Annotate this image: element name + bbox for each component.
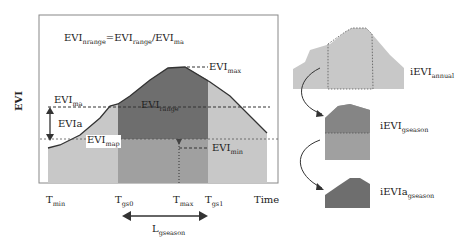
evia-gseason-shape [325,178,370,208]
evi-min-label: EVImin [212,143,243,156]
formula: EVInrange=EVIrange/EVIma [64,33,184,46]
arrow-head-icon [316,110,324,117]
annual-shape [293,28,404,89]
arrow-left-icon [122,211,131,221]
panel-label-evia-gseason: iEVIagseason [380,187,434,200]
arrow-down-icon [46,134,54,141]
season-base-area [118,139,208,183]
evi-range-label: EVIrange [141,100,179,113]
panel-label-annual: iEVIannual [410,67,454,80]
tick-tgs0: Tgs0 [115,195,133,208]
curved-arrow-2 [300,140,322,188]
panel-label-gseason: iEVIgseason [380,121,428,134]
x-axis-label: Time [254,195,279,205]
tick-tgs1: Tgs1 [205,195,223,208]
evi-max-label: EVImax [209,62,241,75]
evi-map-label: EVImap [86,135,121,148]
y-axis-label: EVI [14,91,24,111]
tick-tmax: Tmax [173,195,193,208]
evi-ma-label: EVIma [54,95,83,108]
arrow-up-icon [46,107,54,114]
season-length-label: Lgseason [152,224,185,237]
arrow-head-icon [316,183,324,190]
tick-tmin: Tmin [46,195,65,208]
gseason-upper [325,104,370,133]
arrow-right-icon [199,211,208,221]
evia-label: EVIa [58,119,82,129]
